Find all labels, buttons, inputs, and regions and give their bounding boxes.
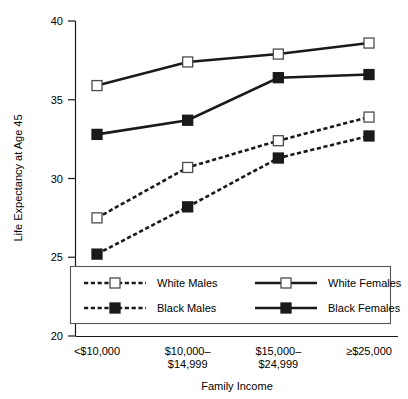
- y-tick-label: 30: [51, 173, 63, 185]
- y-tick-label: 35: [51, 94, 63, 106]
- y-tick-label: 20: [51, 330, 63, 342]
- open-square-marker: [92, 81, 102, 91]
- y-axis-title: Life Expectancy at Age 45: [12, 114, 24, 241]
- legend-label: White Males: [157, 277, 218, 289]
- x-tick-label: $24,999: [258, 358, 298, 370]
- filled-square-marker: [273, 153, 283, 163]
- x-tick-label: $15,000–: [255, 345, 302, 357]
- filled-square-marker: [364, 131, 374, 141]
- x-tick-label: ≥$25,000: [346, 345, 392, 357]
- legend-label: Black Males: [157, 302, 217, 314]
- open-square-marker: [281, 278, 291, 288]
- open-square-marker: [364, 38, 374, 48]
- y-tick-label: 25: [51, 251, 63, 263]
- x-tick-label: $10,000–: [165, 345, 212, 357]
- filled-square-marker: [92, 249, 102, 259]
- legend-label: White Females: [328, 277, 402, 289]
- open-square-marker: [183, 162, 193, 172]
- y-tick-label: 40: [51, 15, 63, 27]
- filled-square-marker: [281, 303, 291, 313]
- open-square-marker: [92, 213, 102, 223]
- filled-square-marker: [92, 129, 102, 139]
- open-square-marker: [273, 49, 283, 59]
- legend-frame: [71, 267, 391, 324]
- filled-square-marker: [183, 202, 193, 212]
- chart-legend: White MalesWhite FemalesBlack MalesBlack…: [71, 267, 402, 324]
- chart-canvas: 2025303540 <$10,000$10,000–$14,999$15,00…: [0, 0, 408, 399]
- x-axis-title: Family Income: [201, 380, 273, 392]
- open-square-marker: [110, 278, 120, 288]
- open-square-marker: [364, 112, 374, 122]
- open-square-marker: [183, 57, 193, 67]
- filled-square-marker: [273, 73, 283, 83]
- filled-square-marker: [110, 303, 120, 313]
- open-square-marker: [273, 136, 283, 146]
- filled-square-marker: [364, 70, 374, 80]
- legend-label: Black Females: [328, 302, 401, 314]
- x-tick-label: $14,999: [168, 358, 208, 370]
- filled-square-marker: [183, 115, 193, 125]
- life-expectancy-line-chart: 2025303540 <$10,000$10,000–$14,999$15,00…: [0, 0, 408, 399]
- x-tick-label: <$10,000: [74, 345, 120, 357]
